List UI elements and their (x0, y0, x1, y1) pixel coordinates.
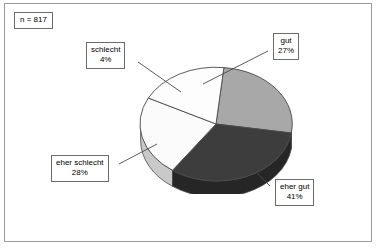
callout-eher-schlecht-label: eher schlecht (56, 158, 104, 168)
pie-slice-top-gut (216, 68, 292, 133)
callout-gut: gut 27% (273, 33, 299, 60)
callout-eher-schlecht: eher schlecht 28% (51, 155, 109, 182)
pie-chart (133, 62, 299, 194)
callout-gut-label: gut (278, 36, 294, 46)
callout-eher-gut: eher gut 41% (275, 179, 314, 206)
pie-chart-svg (133, 62, 299, 194)
chart-frame: n = 817 gut 27% eher gut 41% schlecht 4%… (4, 3, 372, 242)
callout-eher-gut-value: 41% (280, 192, 309, 202)
callout-schlecht-value: 4% (91, 55, 120, 65)
callout-schlecht: schlecht 4% (86, 42, 125, 69)
callout-eher-gut-label: eher gut (280, 182, 309, 192)
sample-size-annotation: n = 817 (14, 12, 53, 29)
callout-eher-schlecht-value: 28% (56, 168, 104, 178)
callout-schlecht-label: schlecht (91, 45, 120, 55)
chart-screenshot: n = 817 gut 27% eher gut 41% schlecht 4%… (0, 0, 383, 251)
sample-size-text: n = 817 (20, 15, 47, 24)
callout-gut-value: 27% (278, 46, 294, 56)
